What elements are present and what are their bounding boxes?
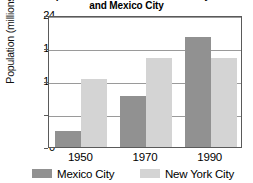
bar-mexico-city-1990[interactable]: [185, 37, 211, 147]
legend-swatch-mexico-city: [32, 169, 52, 178]
bar-new-york-city-1990[interactable]: [211, 58, 237, 147]
y-axis-title-container: Population (millions): [0, 16, 20, 148]
legend-label-mexico-city: Mexico City: [57, 168, 114, 180]
gridline: [49, 17, 241, 18]
plot-area: [48, 16, 242, 148]
x-tick-label: 1970: [115, 151, 175, 163]
legend-label-new-york-city: New York City: [165, 168, 234, 180]
bar-new-york-city-1950[interactable]: [81, 79, 107, 147]
legend-item-new-york-city[interactable]: New York City: [140, 167, 234, 180]
bar-chart: Population Growth in New York City and M…: [0, 0, 253, 183]
bar-mexico-city-1950[interactable]: [55, 131, 81, 148]
x-tick-label: 1950: [50, 151, 110, 163]
gridline: [49, 50, 241, 51]
bar-new-york-city-1970[interactable]: [146, 58, 172, 147]
legend-item-mexico-city[interactable]: Mexico City: [32, 167, 114, 180]
legend-swatch-new-york-city: [140, 169, 160, 178]
chart-legend: Mexico City New York City: [0, 167, 253, 181]
bar-mexico-city-1970[interactable]: [120, 96, 146, 147]
x-tick-label: 1990: [180, 151, 240, 163]
y-axis-title: Population (millions): [4, 0, 17, 105]
y-tick-mark: [44, 148, 48, 149]
